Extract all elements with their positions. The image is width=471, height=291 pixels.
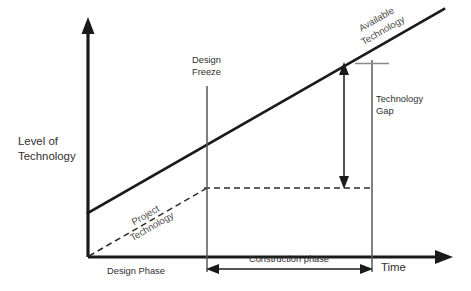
- construction-phase-label: Construction phase: [249, 254, 329, 264]
- technology-gap-label-line2: Gap: [376, 106, 394, 116]
- design-freeze-label-line1: Design: [192, 55, 221, 65]
- design-freeze-label: Design Freeze: [192, 55, 221, 77]
- technology-gap-label-line1: Technology: [376, 94, 423, 104]
- construction-phase-measure: [206, 264, 373, 274]
- design-phase-label: Design Phase: [107, 266, 165, 276]
- construction-phase-arrowhead-right-icon: [360, 264, 373, 274]
- construction-phase-arrowhead-left-icon: [206, 264, 219, 274]
- diagram-canvas: Level of Technology Time Available Techn…: [0, 0, 471, 291]
- technology-gap-arrowhead-down-icon: [339, 176, 349, 189]
- y-axis-label: Level of Technology: [18, 135, 76, 162]
- design-freeze-label-line2: Freeze: [192, 67, 221, 77]
- technology-gap-measure: [339, 62, 349, 189]
- y-axis-arrowhead-icon: [82, 17, 95, 34]
- technology-gap-label: Technology Gap: [376, 94, 423, 116]
- technology-gap-diagram: Level of Technology Time Available Techn…: [0, 0, 471, 291]
- y-axis-label-line2: Technology: [18, 150, 76, 162]
- x-axis-arrowhead-icon: [435, 250, 453, 264]
- y-axis-label-line1: Level of: [18, 135, 59, 147]
- axes-group: [82, 17, 454, 264]
- project-technology-label: Project Technology: [121, 198, 175, 243]
- x-axis-label: Time: [381, 261, 406, 273]
- available-technology-label: Available Technology: [352, 2, 406, 47]
